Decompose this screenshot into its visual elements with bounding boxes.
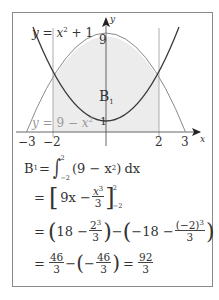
right-paren-icon: ) — [103, 219, 112, 244]
denominator: 3 — [187, 231, 194, 243]
integral-limits: 2−2 — [60, 155, 70, 181]
integrand: (9 − x — [72, 161, 112, 176]
evaluation-limits: 2−2 — [113, 185, 123, 209]
denominator: 3 — [53, 263, 60, 275]
numerator: 46 — [96, 252, 111, 264]
term: 18 − — [57, 224, 89, 239]
equals-sign: = — [123, 256, 134, 271]
fraction: x33 — [92, 186, 104, 209]
numerator: 46 — [49, 252, 64, 264]
right-paren-icon: ) — [206, 219, 215, 244]
left-paren-icon: ( — [48, 219, 57, 244]
exponent: 3 — [97, 218, 101, 226]
equals-sign: = — [34, 224, 45, 239]
denominator: 3 — [142, 263, 149, 275]
lower-limit: −2 — [60, 175, 70, 182]
antiderivative-term: 9x − — [60, 190, 91, 205]
fraction: 233 — [89, 220, 102, 243]
fraction: 463 — [96, 252, 111, 275]
left-paren-icon: ( — [123, 219, 132, 244]
exponent: 3 — [199, 218, 203, 226]
upper-limit: 2 — [113, 185, 123, 192]
fraction: (−2)33 — [175, 220, 205, 243]
equals-sign: = — [34, 190, 45, 205]
integral-sign-icon: ∫ — [53, 157, 61, 179]
denominator: 3 — [100, 263, 107, 275]
denominator: 3 — [92, 231, 99, 243]
minus-sign: − — [112, 224, 123, 239]
numerator: 92 — [138, 252, 153, 264]
right-paren-icon: ) — [112, 251, 120, 275]
result-fraction: 923 — [138, 252, 153, 275]
lower-limit: −2 — [113, 203, 123, 210]
area-symbol: B — [24, 161, 34, 176]
negative-sign: − — [84, 256, 95, 271]
fraction: 463 — [49, 252, 64, 275]
left-paren-icon: ( — [76, 251, 84, 275]
term: −18 − — [131, 224, 173, 239]
upper-limit: 2 — [60, 155, 70, 162]
derivation-line-1: B1= ∫ 2−2 (9 − x2) dx — [24, 155, 140, 181]
derivation-line-4: = 463 − ( − 463 ) = 923 — [34, 248, 154, 278]
numerator: 2 — [90, 219, 97, 231]
left-bracket-icon: [ — [49, 183, 58, 211]
derivation: B1= ∫ 2−2 (9 − x2) dx = [ 9x − x33 ] 2−2… — [0, 0, 219, 300]
derivation-line-3: = ( 18 − 233 ) − ( −18 − (−2)33 ) — [34, 216, 215, 246]
minus-sign: − — [65, 256, 76, 271]
differential: dx — [124, 161, 140, 176]
derivation-line-2: = [ 9x − x33 ] 2−2 — [34, 182, 124, 212]
equals-sign: = — [34, 256, 45, 271]
integrand-close: ) — [116, 161, 121, 176]
exponent: 3 — [99, 184, 103, 192]
numerator: (−2) — [176, 219, 200, 231]
equals-sign: = — [39, 161, 50, 176]
denominator: 3 — [95, 197, 102, 209]
